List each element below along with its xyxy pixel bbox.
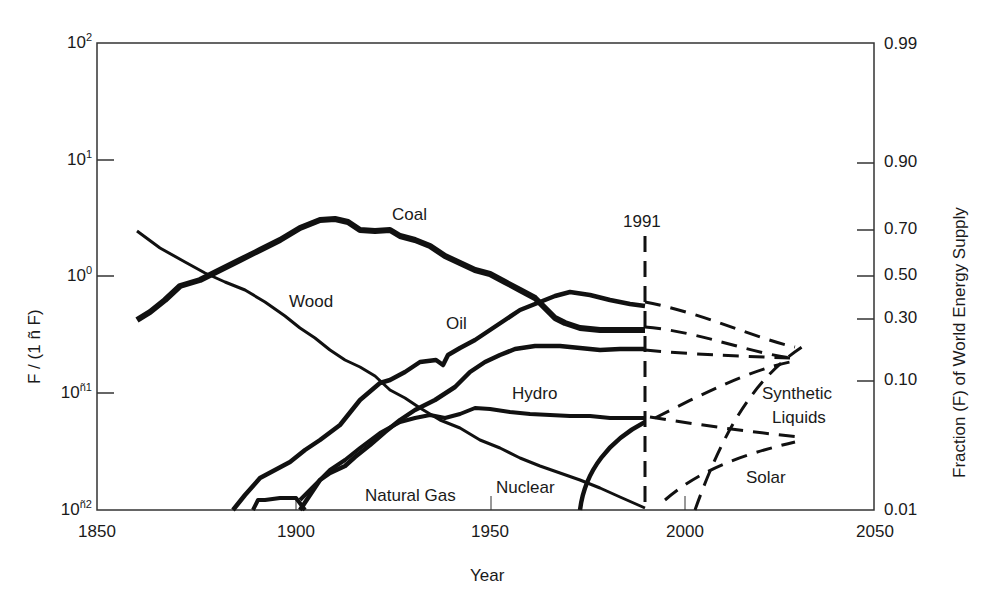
chart-canvas: [0, 0, 995, 608]
proj-gas: [645, 350, 790, 358]
xtick-2000: 2000: [655, 522, 715, 542]
label-nuclear: Nuclear: [496, 478, 555, 498]
ytick-right-6: 0.01: [884, 500, 917, 520]
ytick-right-2: 0.70: [884, 219, 917, 239]
ytick-left-0: 102: [32, 33, 92, 53]
label-hydro: Hydro: [512, 384, 557, 404]
label-solar: Solar: [746, 468, 786, 488]
ytick-right-1: 0.90: [884, 152, 917, 172]
proj-coal: [645, 327, 790, 358]
series-nuclear: [580, 422, 645, 510]
y-axis-right-title: Fraction (F) of World Energy Supply: [950, 207, 970, 478]
ytick-right-3: 0.50: [884, 265, 917, 285]
ytick-left-2: 100: [32, 266, 92, 286]
label-liquids: Liquids: [772, 408, 826, 428]
ytick-left-1: 101: [32, 150, 92, 170]
label-oil: Oil: [446, 314, 467, 334]
bottom-axis-ticks: [296, 496, 685, 510]
x-axis-title: Year: [470, 566, 504, 586]
label-1991: 1991: [623, 212, 661, 232]
ytick-left-4: 10ñ2: [32, 500, 92, 520]
xtick-1900: 1900: [266, 522, 326, 542]
xtick-2050: 2050: [845, 522, 905, 542]
right-axis-ticks: [857, 163, 874, 381]
label-wood: Wood: [289, 292, 333, 312]
ytick-right-0: 0.99: [884, 34, 917, 54]
xtick-1850: 1850: [67, 522, 127, 542]
ytick-right-5: 0.10: [884, 370, 917, 390]
ytick-left-3: 10ñ1: [32, 383, 92, 403]
ytick-right-4: 0.30: [884, 308, 917, 328]
label-synthetic: Synthetic: [762, 384, 832, 404]
label-natural-gas: Natural Gas: [365, 486, 456, 506]
series-natural-gas-early: [253, 498, 305, 510]
series-coal: [137, 219, 645, 330]
label-coal: Coal: [392, 205, 427, 225]
proj-oil: [645, 302, 795, 347]
y-axis-left-title: F / (1 ñ F): [25, 309, 45, 384]
left-axis-ticks: [97, 160, 114, 393]
xtick-1950: 1950: [460, 522, 520, 542]
